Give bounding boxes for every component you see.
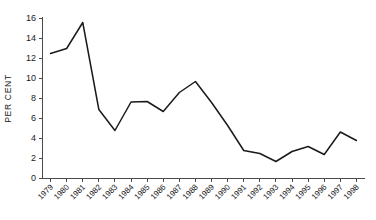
y-axis-tick-label: 14	[26, 33, 36, 43]
x-axis-tick-label: 1998	[342, 182, 361, 201]
x-axis-tick-label: 1996	[310, 182, 329, 201]
x-axis-tick-label: 1979	[36, 182, 55, 201]
y-axis: 0246810121416	[26, 13, 43, 183]
x-axis-tick-label: 1992	[245, 182, 264, 201]
x-axis-tick-label: 1982	[84, 182, 103, 201]
x-axis-tick-label: 1983	[100, 182, 119, 201]
x-axis-tick-label: 1997	[326, 182, 345, 201]
y-axis-tick-label: 8	[31, 93, 36, 103]
x-axis-tick-label: 1990	[213, 182, 232, 201]
y-axis-title-label: PER CENT	[3, 74, 13, 123]
line-chart-figure: PER CENT 0246810121416 19791980198119821…	[0, 0, 376, 220]
x-axis-tick-label: 1993	[261, 182, 280, 201]
x-axis-tick-label: 1995	[294, 182, 313, 201]
x-axis-tick-label: 1985	[133, 182, 152, 201]
x-axis-tick-label: 1989	[197, 182, 216, 201]
x-axis-tick-label: 1991	[229, 182, 248, 201]
x-axis-tick-label: 1988	[181, 182, 200, 201]
x-axis-tick-label: 1984	[117, 182, 136, 201]
x-axis-tick-label: 1981	[68, 182, 87, 201]
y-axis-tick-label: 16	[26, 13, 36, 23]
y-axis-title: PER CENT	[3, 74, 13, 123]
y-axis-tick-label: 10	[26, 73, 36, 83]
x-axis-tick-label: 1994	[278, 182, 297, 201]
y-axis-tick-label: 2	[31, 153, 36, 163]
y-axis-tick-label: 4	[31, 133, 36, 143]
y-axis-tick-label: 6	[31, 113, 36, 123]
x-axis-tick-label: 1980	[52, 182, 71, 201]
y-axis-tick-label: 0	[31, 173, 36, 183]
chart-canvas: PER CENT 0246810121416 19791980198119821…	[0, 0, 376, 220]
x-axis-tick-label: 1987	[165, 182, 184, 201]
x-axis-tick-label: 1986	[149, 182, 168, 201]
y-axis-tick-label: 12	[26, 53, 36, 63]
series-line	[51, 23, 357, 162]
data-series	[51, 23, 357, 162]
x-axis: 1979198019811982198319841985198619871988…	[36, 179, 364, 202]
